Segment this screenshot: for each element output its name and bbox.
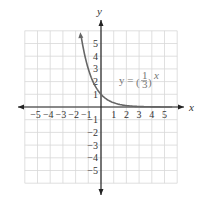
x-tick-label: −3 bbox=[56, 109, 67, 120]
svg-text:(: ( bbox=[136, 76, 140, 89]
x-tick-label: 3 bbox=[137, 109, 142, 120]
x-tick-label: −2 bbox=[68, 109, 79, 120]
svg-text:y =: y = bbox=[119, 74, 133, 86]
y-tick-label: −1 bbox=[87, 114, 98, 125]
y-tick-label: −3 bbox=[87, 140, 98, 151]
x-axis-label: x bbox=[188, 101, 194, 113]
y-axis-up-arrow-icon bbox=[99, 20, 104, 26]
svg-text:x: x bbox=[153, 69, 159, 81]
curve-top-arrow-icon bbox=[78, 32, 83, 38]
svg-text:): ) bbox=[148, 76, 152, 89]
x-tick-label: 1 bbox=[111, 109, 116, 120]
y-tick-label: −4 bbox=[87, 152, 98, 163]
x-tick-label: 5 bbox=[162, 109, 167, 120]
y-axis-down-arrow-icon bbox=[99, 189, 104, 195]
x-tick-label: −5 bbox=[30, 109, 41, 120]
y-tick-label: 4 bbox=[93, 51, 98, 62]
y-axis-label: y bbox=[96, 5, 102, 17]
x-tick-label: 4 bbox=[149, 109, 154, 120]
x-axis-left-arrow-icon bbox=[18, 105, 24, 110]
y-tick-label: −5 bbox=[87, 165, 98, 176]
x-tick-label: −4 bbox=[43, 109, 54, 120]
x-tick-label: 2 bbox=[124, 109, 129, 120]
y-tick-label: 5 bbox=[93, 38, 98, 49]
graph: −5−4−3−2−11234554321−1−2−3−4−5 x y y = (… bbox=[0, 0, 204, 198]
x-axis-right-arrow-icon bbox=[178, 105, 184, 110]
y-tick-label: 3 bbox=[93, 63, 98, 74]
y-tick-label: −2 bbox=[87, 127, 98, 138]
